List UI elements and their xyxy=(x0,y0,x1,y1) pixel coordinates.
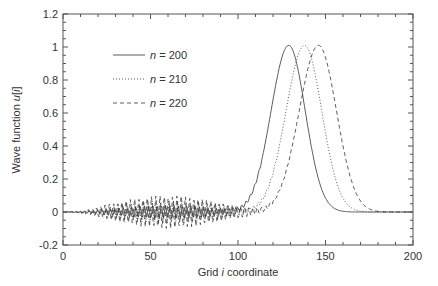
legend-label: n = 200 xyxy=(150,49,187,61)
legend-label: n = 220 xyxy=(150,97,187,109)
wave-function-chart: 050100150200 -0.200.20.40.60.811.2 Grid … xyxy=(0,0,438,286)
x-tick-label: 0 xyxy=(60,250,66,262)
y-tick-label: 1 xyxy=(52,41,58,53)
y-tick-label: -0.2 xyxy=(39,239,58,251)
chart-legend: n = 200n = 210n = 220 xyxy=(113,49,187,109)
y-tick-label: 0.4 xyxy=(43,140,58,152)
x-tick-label: 50 xyxy=(144,250,156,262)
series-line-solid xyxy=(63,45,413,218)
y-tick-label: 0.2 xyxy=(43,173,58,185)
y-tick-label: 0.6 xyxy=(43,107,58,119)
series-line-dotted xyxy=(63,45,413,223)
x-tick-label: 150 xyxy=(316,250,334,262)
x-tick-label: 100 xyxy=(229,250,247,262)
plot-curves xyxy=(63,45,413,228)
x-axis-label: Grid i coordinate xyxy=(198,266,279,278)
y-tick-label: 0 xyxy=(52,206,58,218)
x-tick-label: 200 xyxy=(404,250,422,262)
y-axis-label: Wave function u[i] xyxy=(10,86,22,173)
series-line-dashed xyxy=(63,45,413,228)
x-axis-ticks: 050100150200 xyxy=(60,14,422,262)
y-tick-label: 1.2 xyxy=(43,8,58,20)
y-tick-label: 0.8 xyxy=(43,74,58,86)
legend-label: n = 210 xyxy=(150,73,187,85)
